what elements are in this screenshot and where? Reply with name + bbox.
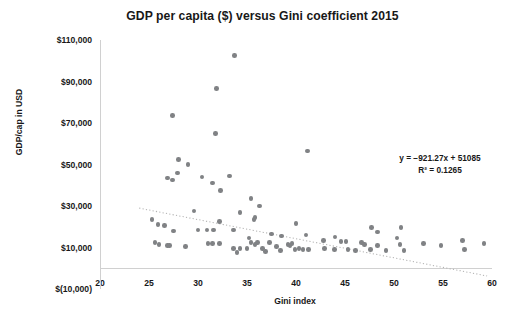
regression-annotation: y = −921.27x + 51085 R² = 0.1265 (370, 152, 510, 176)
data-point (217, 241, 222, 246)
data-point (162, 223, 167, 228)
data-point (231, 228, 236, 233)
data-point (398, 242, 403, 247)
data-point (368, 247, 373, 252)
data-point (279, 234, 284, 239)
data-point (218, 188, 223, 193)
data-point (263, 249, 268, 254)
data-point (346, 247, 351, 252)
data-point (214, 86, 219, 91)
data-point (375, 243, 380, 248)
scatter-chart: GDP per capita ($) versus Gini coefficie… (0, 0, 525, 319)
data-point (232, 53, 237, 58)
data-point (171, 229, 176, 234)
data-point (170, 113, 175, 118)
data-point (439, 243, 444, 248)
data-point (206, 241, 211, 246)
data-point (290, 241, 295, 246)
data-point (238, 210, 243, 215)
data-point (269, 232, 274, 237)
data-point (170, 178, 175, 183)
data-point (255, 240, 260, 245)
data-point (322, 246, 327, 251)
data-point (156, 222, 161, 227)
data-point (150, 217, 155, 222)
r-squared-text: R² = 0.1265 (418, 165, 462, 175)
data-point (369, 225, 374, 230)
data-point (339, 239, 344, 244)
data-point (321, 238, 326, 243)
r-squared: R² = 0.1265 (370, 164, 510, 176)
data-point (344, 239, 349, 244)
regression-equation: y = −921.27x + 51085 (370, 152, 510, 164)
data-point (482, 241, 487, 246)
data-point (252, 217, 257, 222)
data-point (157, 242, 162, 247)
data-point (217, 219, 222, 224)
data-point (211, 228, 216, 233)
data-point (278, 248, 283, 253)
data-point (227, 174, 232, 179)
data-point (175, 171, 180, 176)
data-point (301, 247, 306, 252)
data-point (375, 230, 380, 235)
data-point (245, 246, 250, 251)
data-point (306, 247, 311, 252)
data-point (362, 242, 367, 247)
data-point (353, 248, 358, 253)
data-point (167, 243, 172, 248)
data-point (267, 240, 272, 245)
data-point (210, 241, 215, 246)
data-point (402, 248, 407, 253)
data-point (165, 176, 170, 181)
data-point (462, 247, 467, 252)
data-point (421, 241, 426, 246)
data-point (213, 131, 218, 136)
data-point (460, 238, 465, 243)
data-point (176, 157, 181, 162)
data-point (183, 244, 188, 249)
data-point (332, 247, 337, 252)
